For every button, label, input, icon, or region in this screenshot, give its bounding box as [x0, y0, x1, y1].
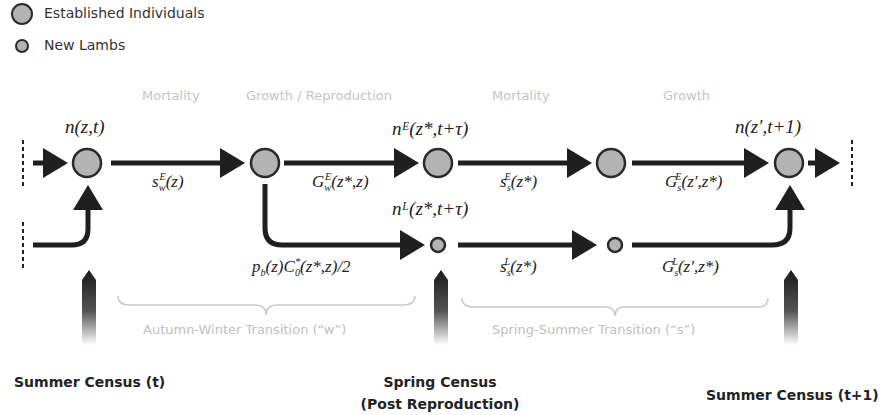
census-arrow-summer-t: [82, 270, 96, 345]
node-post-winter-survival: [251, 149, 279, 177]
node-nL: [431, 238, 445, 252]
census-spring-line2: (Post Reproduction): [360, 393, 520, 415]
label-n-z-t: n(z,t): [65, 116, 105, 138]
legend-established-label: Established Individuals: [44, 5, 204, 21]
census-arrow-spring: [434, 270, 448, 345]
label-s-s-L: ssL(z*): [500, 256, 537, 278]
census-spring-line1: Spring Census: [360, 371, 520, 393]
label-G-s-L: GsL(z′,z*): [662, 256, 719, 278]
label-G-s-E: GsE(z′,z*): [665, 171, 723, 193]
node-post-spring-survival: [597, 149, 625, 177]
census-spring: Spring Census (Post Reproduction): [360, 371, 520, 415]
label-reproduction: pb(z)C0*(z*,z)/2: [252, 256, 351, 278]
label-nE: nᴱ(z*,t+τ): [392, 118, 468, 140]
label-G-w-E: GwE(z*,z): [312, 171, 369, 193]
label-nL: nᴸ(z*,t+τ): [392, 198, 468, 220]
node-n-next: [775, 149, 803, 177]
label-s-s-E: ssE(z*): [500, 171, 537, 193]
transition-autumn-winter: Autumn-Winter Transition (“w”): [143, 322, 346, 337]
label-n-next: n(z′,t+1): [735, 116, 801, 138]
phase-mortality-spring: Mortality: [492, 88, 550, 103]
phase-mortality-winter: Mortality: [142, 88, 200, 103]
transition-spring-summer: Spring-Summer Transition (“s”): [492, 322, 695, 337]
phase-growth-reproduction: Growth / Reproduction: [246, 88, 392, 103]
brace-autumn-winter: [118, 296, 415, 315]
phase-growth-summer: Growth: [663, 88, 710, 103]
census-arrow-summer-t1: [784, 270, 798, 345]
node-lamb-survival: [608, 238, 622, 252]
legend-established-icon: [12, 4, 32, 24]
legend-lamb-icon: [16, 40, 28, 52]
census-summer-t1: Summer Census (t+1): [706, 384, 879, 406]
census-summer-t: Summer Census (t): [14, 371, 165, 393]
node-n-z-t: [73, 149, 101, 177]
brace-spring-summer: [462, 298, 768, 316]
legend-lambs-label: New Lambs: [44, 37, 125, 53]
label-s-w-E: swE(z): [152, 171, 184, 193]
arrow-lambs-join-right: [632, 190, 790, 245]
node-nE: [424, 149, 452, 177]
arrow-lambs-join-left: [33, 190, 88, 245]
